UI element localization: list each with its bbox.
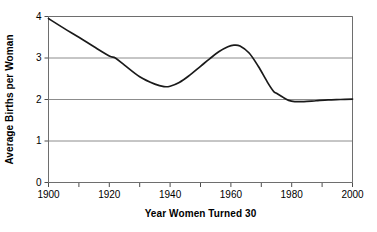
x-tick-label-1980: 1980 [272, 190, 312, 200]
y-axis-title: Average Births per Woman [0, 16, 18, 182]
y-tick-label-2: 2 [20, 95, 42, 105]
x-axis-title-text: Year Women Turned 30 [48, 208, 353, 219]
y-tick-label-0: 0 [20, 178, 42, 188]
y-tick-label-4: 4 [20, 12, 42, 22]
x-tick-label-1900: 1900 [29, 190, 69, 200]
x-tick-label-1960: 1960 [211, 190, 251, 200]
chart-figure: Average Births per Woman Year Women Turn… [0, 0, 377, 232]
x-tick-label-2000: 2000 [333, 190, 373, 200]
x-tick-label-1940: 1940 [150, 190, 190, 200]
y-tick-label-3: 3 [20, 53, 42, 63]
y-axis-title-text: Average Births per Woman [4, 34, 15, 164]
y-tick-label-1: 1 [20, 136, 42, 146]
x-tick-label-1920: 1920 [89, 190, 129, 200]
